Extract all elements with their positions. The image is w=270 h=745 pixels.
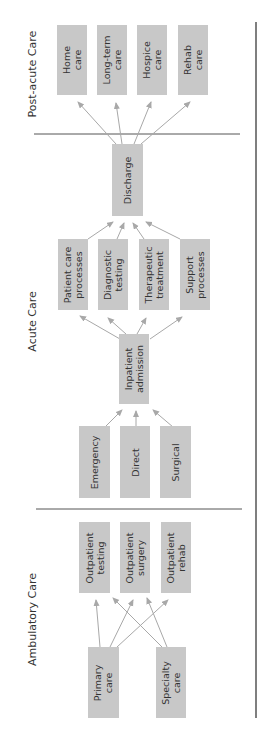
box-long-term-care: Long-term care bbox=[97, 25, 127, 95]
section-label-ambulatory: Ambulatory Care bbox=[26, 570, 39, 670]
box-outpatient-surgery: Outpatient surgery bbox=[120, 522, 150, 593]
box-emergency: Emergency bbox=[79, 426, 110, 498]
box-label: Outpatient surgery bbox=[124, 532, 146, 583]
box-discharge: Discharge bbox=[112, 144, 143, 216]
box-label: Diagnostic testing bbox=[102, 249, 124, 299]
box-label: Specialty care bbox=[160, 661, 182, 705]
care-continuum-diagram: Post-acute Care Acute Care Ambulatory Ca… bbox=[0, 0, 270, 745]
box-label: Patient care processes bbox=[62, 246, 84, 303]
box-label: Emergency bbox=[89, 435, 100, 489]
box-outpatient-rehab: Outpatient rehab bbox=[161, 522, 191, 593]
box-label: Outpatient testing bbox=[84, 532, 106, 583]
box-support-processes: Support processes bbox=[180, 239, 210, 310]
section-label-post-acute: Post-acute Care bbox=[26, 38, 39, 118]
box-label: Therapeutic treatment bbox=[143, 246, 165, 303]
box-direct: Direct bbox=[120, 426, 150, 498]
box-label: Long-term care bbox=[101, 36, 123, 85]
box-inpatient-admission: Inpatient admission bbox=[119, 334, 149, 404]
box-therapeutic-treatment: Therapeutic treatment bbox=[139, 239, 169, 310]
box-label: Rehab care bbox=[182, 45, 204, 75]
box-home-care: Home care bbox=[57, 25, 87, 95]
box-label: Outpatient rehab bbox=[165, 532, 187, 583]
box-hospice-care: Hospice care bbox=[137, 25, 167, 95]
box-diagnostic-testing: Diagnostic testing bbox=[98, 239, 128, 310]
box-patient-care-processes: Patient care processes bbox=[58, 239, 88, 310]
box-specialty-care: Specialty care bbox=[156, 647, 186, 718]
box-rehab-care: Rehab care bbox=[178, 25, 208, 95]
box-primary-care: Primary care bbox=[88, 647, 119, 718]
section-label-acute: Acute Care bbox=[26, 282, 39, 362]
box-label: Home care bbox=[61, 46, 83, 74]
box-label: Direct bbox=[129, 448, 140, 476]
box-label: Inpatient admission bbox=[123, 345, 145, 393]
box-label: Primary care bbox=[93, 664, 115, 701]
box-label: Surgical bbox=[170, 443, 181, 481]
box-outpatient-testing: Outpatient testing bbox=[79, 522, 110, 593]
box-surgical: Surgical bbox=[160, 426, 191, 498]
box-label: Hospice care bbox=[141, 41, 163, 79]
box-label: Support processes bbox=[184, 251, 206, 298]
box-label: Discharge bbox=[122, 156, 133, 204]
